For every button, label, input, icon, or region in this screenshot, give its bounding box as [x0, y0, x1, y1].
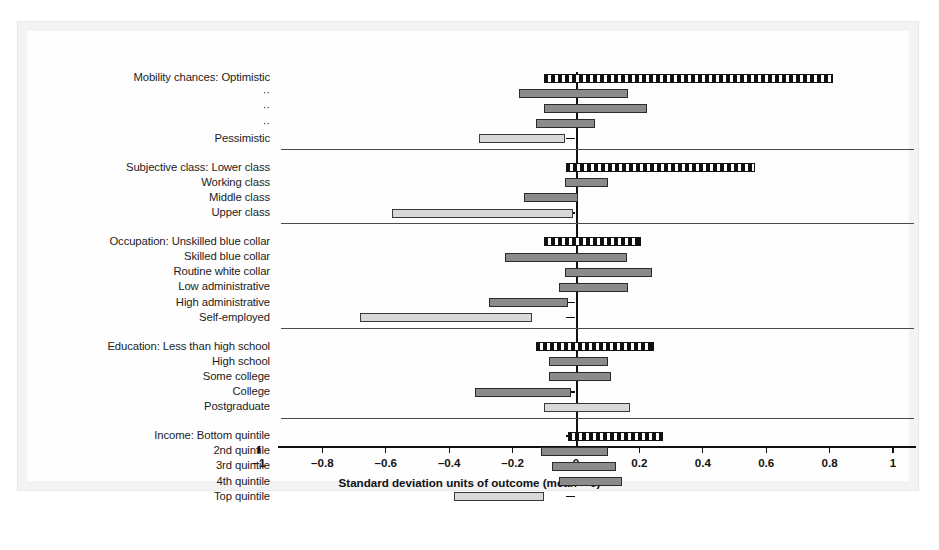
y-axis-tick: [566, 496, 575, 497]
group-separator-line: [281, 418, 914, 419]
x-axis-tick: [449, 446, 450, 453]
chart-bar: [489, 298, 568, 307]
x-axis-tick: [892, 446, 893, 453]
y-axis-category-label: Top quintile: [214, 490, 270, 502]
chart-bar: [559, 283, 629, 292]
x-axis-tick-label: –0.8: [311, 456, 334, 469]
x-axis-tick: [385, 446, 386, 453]
y-axis-category-label: 3rd quintile: [216, 459, 270, 471]
x-axis-tick-label: 0.6: [758, 456, 774, 469]
y-axis-category-label: Income: Bottom quintile: [154, 429, 270, 441]
chart-bar: [524, 193, 578, 202]
chart-bar: [536, 119, 595, 128]
y-axis-category-label: High administrative: [176, 296, 270, 308]
x-axis-tick: [322, 446, 323, 453]
y-axis-category-label: Upper class: [211, 206, 270, 218]
chart-bar: [559, 477, 622, 486]
x-axis-tick: [702, 446, 703, 453]
y-axis-category-label: Routine white collar: [173, 265, 270, 277]
y-axis-category-label: Working class: [201, 176, 270, 188]
chart-bar: [475, 388, 572, 397]
chart-bar: [549, 372, 611, 381]
chart-bar: [565, 268, 652, 277]
x-axis-tick-label: –0.6: [375, 456, 398, 469]
chart-bar: [549, 357, 608, 366]
y-axis-tick: [566, 317, 575, 318]
x-axis-tick: [512, 446, 513, 453]
chart-bar: [360, 313, 531, 322]
x-axis-tick: [766, 446, 767, 453]
chart-bar: [544, 403, 630, 412]
x-axis-tick-label: 0.4: [695, 456, 711, 469]
y-axis-category-label: Low administrative: [178, 280, 270, 292]
x-axis-tick-label: 0.2: [631, 456, 647, 469]
chart-bar: [392, 209, 573, 218]
y-axis-category-label: College: [232, 385, 270, 397]
x-axis-tick-label: 1: [890, 456, 896, 469]
group-separator-line: [281, 223, 914, 224]
x-axis-tick: [639, 446, 640, 453]
x-axis-tick-label: –0.2: [501, 456, 524, 469]
y-axis-category-label: Skilled blue collar: [184, 250, 270, 262]
y-axis-category-label: ··: [263, 101, 270, 113]
y-axis-category-label: ··: [263, 117, 270, 129]
figure-caption: [20, 512, 920, 538]
chart-bar: [568, 432, 663, 441]
y-axis-category-label: Pessimistic: [215, 132, 270, 144]
y-axis-category-label: Mobility chances: Optimistic: [133, 71, 270, 83]
y-axis-category-label: Subjective class: Lower class: [126, 161, 270, 173]
group-separator-line: [281, 149, 914, 150]
chart-bar: [519, 89, 628, 98]
chart-bar: [536, 342, 653, 351]
chart-plot-area: Standard deviation units of outcome (mea…: [0, 0, 939, 550]
chart-bar: [566, 163, 755, 172]
group-separator-line: [281, 328, 914, 329]
y-axis-category-label: High school: [212, 355, 270, 367]
chart-bar: [544, 104, 647, 113]
y-axis-category-label: Middle class: [209, 191, 270, 203]
chart-bar: [565, 178, 608, 187]
x-axis-tick: [829, 446, 830, 453]
chart-bar: [479, 134, 565, 143]
chart-bar: [544, 237, 641, 246]
y-axis-category-label: ··: [263, 86, 270, 98]
chart-bar: [541, 447, 608, 456]
x-axis-title: Standard deviation units of outcome (mea…: [0, 476, 939, 489]
chart-bar: [454, 492, 544, 501]
y-axis-category-label: Education: Less than high school: [107, 340, 270, 352]
y-axis-category-label: Self-employed: [199, 311, 270, 323]
chart-bar: [544, 74, 832, 83]
y-axis-category-label: 4th quintile: [217, 475, 270, 487]
y-axis-category-label: Occupation: Unskilled blue collar: [109, 235, 270, 247]
x-axis-tick-label: –0.4: [438, 456, 461, 469]
chart-bar: [552, 462, 615, 471]
chart-bar: [505, 253, 627, 262]
x-axis-tick-label: 0.8: [822, 456, 838, 469]
y-axis-category-label: 2nd quintile: [213, 444, 270, 456]
y-axis-category-label: Postgraduate: [204, 400, 270, 412]
y-axis-tick: [566, 138, 575, 139]
y-axis-category-label: Some college: [203, 370, 270, 382]
figure-root: Standard deviation units of outcome (mea…: [0, 0, 939, 550]
